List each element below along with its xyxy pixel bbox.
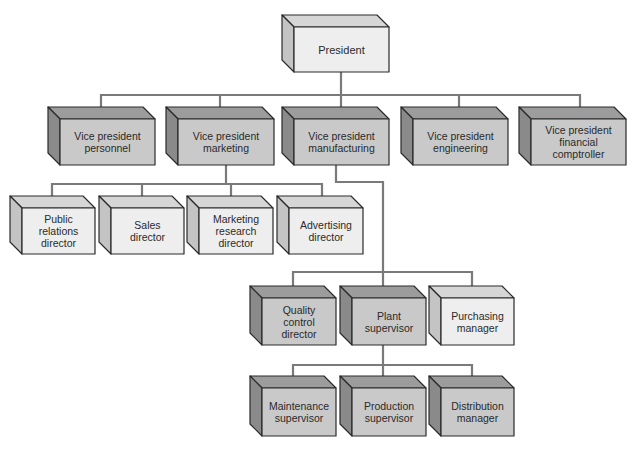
box-top-face (519, 107, 626, 119)
org-box-label-vp-personnel: Vice president personnel (60, 119, 155, 165)
org-box-label-sales: Sales director (111, 208, 184, 254)
box-top-face (282, 15, 389, 27)
org-box-label-vp-manufacturing: Vice president manufacturing (294, 119, 389, 165)
box-top-face (340, 376, 426, 388)
box-top-face (401, 107, 508, 119)
box-top-face (250, 376, 336, 388)
box-top-face (99, 196, 184, 208)
box-top-face (187, 196, 273, 208)
org-box-label-public-relations: Public relations director (22, 208, 95, 254)
org-box-label-vp-marketing: Vice president marketing (178, 119, 274, 165)
org-box-label-quality-control: Quality control director (262, 298, 336, 345)
box-top-face (250, 286, 336, 298)
org-box-label-distribution: Distribution manager (441, 388, 514, 436)
box-top-face (282, 107, 389, 119)
box-top-face (429, 286, 514, 298)
box-top-face (429, 376, 514, 388)
org-box-label-purchasing: Purchasing manager (441, 298, 514, 345)
org-box-label-advertising: Advertising director (289, 208, 363, 254)
org-box-label-vp-engineering: Vice president engineering (413, 119, 508, 165)
org-box-label-vp-financial: Vice president financial comptroller (531, 119, 626, 165)
org-box-label-marketing-research: Marketing research director (199, 208, 273, 254)
box-top-face (166, 107, 274, 119)
org-box-label-president: President (294, 27, 389, 72)
box-top-face (277, 196, 363, 208)
org-box-label-plant-supervisor: Plant supervisor (352, 298, 426, 345)
box-top-face (10, 196, 95, 208)
box-top-face (340, 286, 426, 298)
org-box-label-maintenance: Maintenance supervisor (262, 388, 336, 436)
org-box-label-production: Production supervisor (352, 388, 426, 436)
box-top-face (48, 107, 155, 119)
